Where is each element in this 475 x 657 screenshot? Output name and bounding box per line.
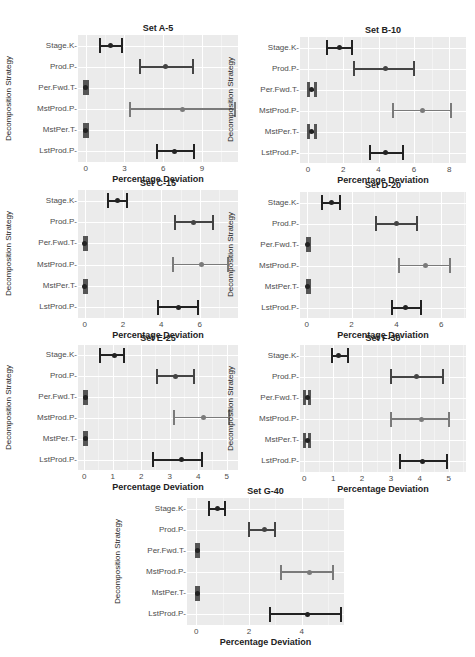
category-label: Prod.P- [272,372,299,381]
mean-point [309,87,314,92]
minor-gridline [212,345,213,470]
error-cap-right [442,369,444,384]
major-gridline [84,345,85,470]
mean-point [83,436,88,441]
x-tick-label: 0 [76,164,96,173]
minor-gridline [348,345,349,472]
category-label: MstProd.P- [37,104,77,113]
major-gridline [449,345,450,472]
major-gridline [187,551,344,552]
category-label: MstPer.T- [43,125,77,134]
error-cap-right [416,216,418,231]
major-gridline [300,308,466,309]
x-tick-label: 0 [186,627,206,636]
major-gridline [300,287,466,288]
x-tick-label: 6 [404,165,424,174]
minor-gridline [219,190,220,318]
error-cap-right [340,607,342,622]
major-gridline [113,345,114,470]
mean-point [336,353,341,358]
category-label: LstProd.P- [148,609,186,618]
error-cap-right [234,102,236,117]
category-label: Per.Fwd.T- [260,85,299,94]
error-cap-right [413,61,415,76]
minor-gridline [326,37,327,163]
category-label: MstProd.P- [259,106,299,115]
error-bar [153,459,203,461]
category-label: MstProd.P- [37,260,77,269]
major-gridline [78,130,238,131]
category-label: Per.Fwd.T- [260,393,299,402]
major-gridline [391,345,392,472]
major-gridline [202,35,203,162]
plot-area [300,192,466,318]
major-gridline [78,286,238,287]
major-gridline [196,498,197,625]
minor-gridline [377,345,378,472]
error-cap-right [402,145,404,160]
x-tick-label: 2 [239,627,259,636]
error-cap-left [156,369,158,384]
mean-point [307,570,312,575]
mean-point [215,506,220,511]
major-gridline [302,498,303,625]
category-label: Stage.K- [268,43,299,52]
category-label: Per.Fwd.T- [260,240,299,249]
y-axis-label: Decomposition Strategy [113,498,122,625]
minor-gridline [104,190,105,318]
category-label: Per.Fwd.T- [38,83,77,92]
mean-point [201,415,206,420]
mean-point [108,43,113,48]
error-cap-left [369,145,371,160]
mean-point [423,263,428,268]
category-label: Stage.K- [155,504,186,513]
major-gridline [304,345,305,472]
category-label: MstPer.T- [265,127,299,136]
x-tick-label: 0 [74,472,94,481]
x-tick-label: 1 [323,474,343,483]
panel-title: Set C-15 [78,178,238,188]
error-cap-right [192,59,194,74]
x-tick-label: 3 [114,164,134,173]
panel-title: Set G-40 [187,486,344,496]
plot-area [300,37,466,163]
category-label: Stage.K- [268,351,299,360]
x-tick-label: 4 [410,474,430,483]
x-tick-label: 1 [103,472,123,481]
error-cap-right [448,412,450,427]
category-label: Stage.K- [46,350,77,359]
mean-point [420,459,425,464]
error-cap-left [172,257,174,272]
minor-gridline [181,190,182,318]
error-cap-right [193,144,195,159]
error-cap-left [208,501,210,516]
category-label: Stage.K- [46,196,77,205]
major-gridline [300,398,466,399]
mean-point [305,612,310,617]
mean-point [172,149,177,154]
minor-gridline [464,192,465,318]
minor-gridline [275,498,276,625]
major-gridline [123,190,124,318]
major-gridline [78,243,238,244]
x-tick-label: 9 [192,164,212,173]
x-tick-label: 8 [439,165,459,174]
x-tick-label: 3 [381,474,401,483]
error-cap-right [123,348,125,363]
x-tick-label: 4 [386,320,406,329]
minor-gridline [155,345,156,470]
error-cap-left [375,216,377,231]
plot-area [78,35,238,162]
mean-point [176,305,181,310]
major-gridline [396,192,397,318]
error-cap-left [391,300,393,315]
error-cap-left [157,300,159,315]
mean-point [337,45,342,50]
major-gridline [300,440,466,441]
y-axis-label: Decomposition Strategy [226,37,235,163]
error-cap-left [107,193,109,208]
major-gridline [187,593,344,594]
minor-gridline [105,35,106,162]
panel-title: Set E-25 [78,333,238,343]
mean-point [403,305,408,310]
